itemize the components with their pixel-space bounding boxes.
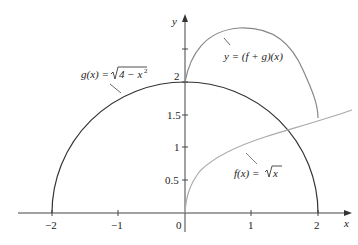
f-label: f(x) =	[234, 167, 259, 180]
y-tick-label: 2	[174, 70, 180, 82]
x-tick-label: 1	[248, 219, 254, 231]
f-label-pointer	[246, 153, 257, 164]
x-tick-label: −2	[45, 219, 57, 231]
y-tick-label: 1	[174, 141, 180, 153]
x-tick-label: −1	[111, 219, 123, 231]
g-radicand: 4 − x	[119, 68, 142, 80]
g-label-pointer	[110, 84, 121, 93]
g-label: g(x) =	[81, 68, 109, 81]
function-graph: −2 −1 0 1 2 x 0.5 1 1.5 2 y g(x) = 4 − x…	[0, 0, 358, 245]
y-axis-label: y	[171, 15, 177, 27]
f-radicand: x	[272, 167, 278, 179]
curve-f	[185, 110, 352, 213]
y-axis-arrow-icon	[182, 14, 188, 22]
origin-label: 0	[176, 219, 182, 231]
y-tick-label: 1.5	[167, 109, 181, 121]
x-axis-label: x	[343, 217, 349, 229]
x-axis-arrow-icon	[344, 210, 352, 216]
y-tick-label: 0.5	[165, 174, 179, 186]
g-exponent: 2	[144, 67, 148, 75]
sum-label: y = (f + g)(x)	[223, 50, 283, 63]
x-tick-label: 2	[314, 219, 320, 231]
sum-label-pointer	[224, 38, 230, 45]
curve-f-plus-g	[185, 28, 318, 118]
